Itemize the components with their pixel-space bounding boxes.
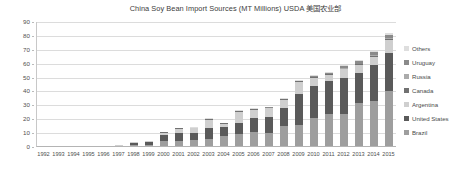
x-tick-label: 2006 bbox=[247, 151, 259, 158]
legend-label: Argentina bbox=[412, 101, 438, 108]
x-tick-label: 1998 bbox=[127, 151, 139, 158]
x-tick-label: 1997 bbox=[112, 151, 124, 158]
plot-area bbox=[36, 22, 396, 147]
y-tick-mark bbox=[32, 133, 34, 134]
y-tick-label: 90 bbox=[23, 19, 30, 25]
chart-container: China Soy Bean Import Sources (MT Millio… bbox=[0, 0, 471, 175]
x-tick-label: 2011 bbox=[322, 151, 334, 158]
x-tick-label: 2012 bbox=[337, 151, 349, 158]
legend-item[interactable]: Uruguay bbox=[404, 55, 470, 69]
x-tick-label: 2014 bbox=[367, 151, 379, 158]
x-axis: 1992199319941995199619971998199920002001… bbox=[36, 149, 396, 163]
y-tick-mark bbox=[32, 36, 34, 37]
x-tick-label: 1996 bbox=[97, 151, 109, 158]
x-tick-label: 1992 bbox=[37, 151, 49, 158]
y-tick-label: 60 bbox=[23, 61, 30, 67]
plot-frame bbox=[36, 22, 396, 147]
y-tick-label: 40 bbox=[23, 88, 30, 94]
y-tick-mark bbox=[32, 147, 34, 148]
x-tick-label: 2008 bbox=[277, 151, 289, 158]
legend-label: Canada bbox=[412, 87, 433, 94]
x-tick-label: 2005 bbox=[232, 151, 244, 158]
y-tick-label: 0 bbox=[27, 144, 30, 150]
legend-swatch-icon bbox=[404, 102, 409, 107]
legend-label: Brazil bbox=[412, 129, 427, 136]
legend-item[interactable]: United States bbox=[404, 111, 470, 125]
x-tick-label: 1993 bbox=[52, 151, 64, 158]
x-tick-label: 2010 bbox=[307, 151, 319, 158]
legend-label: Others bbox=[412, 45, 430, 52]
legend-item[interactable]: Russia bbox=[404, 69, 470, 83]
chart-title: China Soy Bean Import Sources (MT Millio… bbox=[0, 3, 471, 14]
chart-legend: OthersUruguayRussiaCanadaArgentinaUnited… bbox=[404, 41, 470, 139]
x-tick-label: 1994 bbox=[67, 151, 79, 158]
x-tick-label: 2004 bbox=[217, 151, 229, 158]
y-tick-label: 10 bbox=[23, 130, 30, 136]
x-tick-label: 2013 bbox=[352, 151, 364, 158]
legend-item[interactable]: Canada bbox=[404, 83, 470, 97]
x-tick-label: 2000 bbox=[157, 151, 169, 158]
legend-label: United States bbox=[412, 115, 449, 122]
y-tick-mark bbox=[32, 64, 34, 65]
y-tick-mark bbox=[32, 50, 34, 51]
y-tick-label: 50 bbox=[23, 75, 30, 81]
y-tick-label: 20 bbox=[23, 116, 30, 122]
legend-label: Russia bbox=[412, 73, 431, 80]
x-tick-label: 2015 bbox=[382, 151, 394, 158]
y-tick-mark bbox=[32, 119, 34, 120]
legend-label: Uruguay bbox=[412, 59, 435, 66]
legend-swatch-icon bbox=[404, 46, 409, 51]
legend-swatch-icon bbox=[404, 116, 409, 121]
y-axis: 0102030405060708090 bbox=[0, 22, 34, 147]
legend-swatch-icon bbox=[404, 74, 409, 79]
x-tick-label: 2003 bbox=[202, 151, 214, 158]
y-tick-label: 30 bbox=[23, 102, 30, 108]
y-tick-mark bbox=[32, 91, 34, 92]
y-tick-label: 70 bbox=[23, 47, 30, 53]
y-tick-mark bbox=[32, 78, 34, 79]
legend-swatch-icon bbox=[404, 60, 409, 65]
legend-swatch-icon bbox=[404, 130, 409, 135]
legend-item[interactable]: Argentina bbox=[404, 97, 470, 111]
x-tick-label: 1995 bbox=[82, 151, 94, 158]
y-tick-mark bbox=[32, 105, 34, 106]
x-tick-label: 2002 bbox=[187, 151, 199, 158]
y-tick-mark bbox=[32, 22, 34, 23]
x-tick-label: 2009 bbox=[292, 151, 304, 158]
x-tick-label: 2007 bbox=[262, 151, 274, 158]
y-tick-label: 80 bbox=[23, 33, 30, 39]
legend-item[interactable]: Brazil bbox=[404, 125, 470, 139]
legend-swatch-icon bbox=[404, 88, 409, 93]
x-tick-label: 1999 bbox=[142, 151, 154, 158]
x-tick-label: 2001 bbox=[172, 151, 184, 158]
legend-item[interactable]: Others bbox=[404, 41, 470, 55]
